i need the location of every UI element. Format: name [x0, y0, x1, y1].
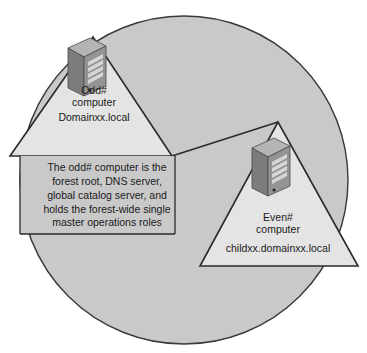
child-domain-name-label: childxx.domainxx.local [190, 242, 366, 254]
forest-role-note: The odd# computer is the forest root, DN… [22, 161, 192, 230]
root-domain-name-label: Domainxx.local [6, 111, 182, 123]
root-domain-computer-label: Odd# computer [6, 84, 182, 109]
server-tower-icon-child [252, 138, 290, 196]
diagram-canvas: Odd# computer Domainxx.local The odd# co… [0, 0, 367, 353]
child-domain-computer-label: Even# computer [196, 211, 360, 236]
